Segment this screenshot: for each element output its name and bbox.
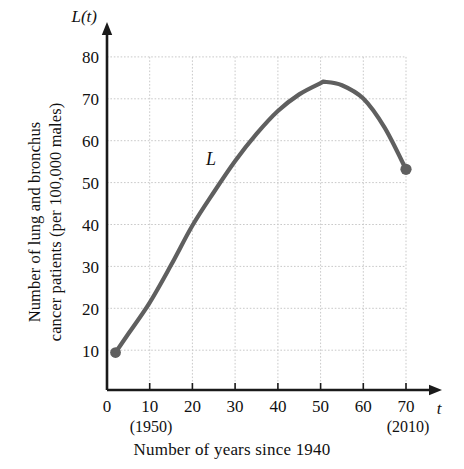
- curve-label-L: L: [205, 149, 216, 169]
- x-axis-caption: Number of years since 1940: [0, 440, 464, 460]
- xtick-label-70: 70: [398, 397, 415, 416]
- ytick-label-40: 40: [82, 216, 99, 235]
- y-axis-name-label: L(t): [71, 7, 98, 26]
- x-tick-annotations: (1950) (2010): [130, 418, 430, 436]
- line-chart-svg: 10 20 30 40 50 60 70 80 0 10 20 30 40 50…: [0, 0, 464, 469]
- y-tick-labels: 10 20 30 40 50 60 70 80: [82, 48, 99, 360]
- chart-figure: 10 20 30 40 50 60 70 80 0 10 20 30 40 50…: [0, 0, 464, 469]
- x-axis-name-label: t: [437, 399, 443, 418]
- y-axis-caption: Number of lung and bronchus cancer patie…: [24, 54, 66, 390]
- ytick-label-20: 20: [82, 300, 99, 319]
- xtick-label-10: 10: [141, 397, 158, 416]
- horizontal-gridlines: [107, 57, 406, 350]
- x-tick-labels: 0 10 20 30 40 50 60 70: [103, 397, 415, 416]
- xtick-annotation-2010: (2010): [387, 418, 430, 436]
- x-axis: [107, 385, 442, 395]
- vertical-gridlines: [150, 57, 406, 390]
- ytick-label-70: 70: [82, 90, 99, 109]
- ytick-label-10: 10: [82, 342, 99, 361]
- xtick-label-40: 40: [269, 397, 286, 416]
- xtick-label-30: 30: [227, 397, 244, 416]
- ytick-label-60: 60: [82, 132, 99, 151]
- ytick-label-50: 50: [82, 174, 99, 193]
- start-point-marker: [110, 347, 121, 358]
- xtick-label-60: 60: [355, 397, 372, 416]
- end-point-marker: [400, 164, 411, 175]
- data-curve-L: [116, 82, 406, 353]
- xtick-annotation-1950: (1950): [130, 418, 173, 436]
- y-axis-caption-line-2: cancer patients (per 100,000 males): [45, 54, 66, 390]
- ytick-label-80: 80: [82, 48, 99, 67]
- x-axis-arrowhead: [429, 385, 442, 395]
- y-axis: [102, 22, 112, 390]
- y-axis-arrowhead: [102, 22, 112, 35]
- xtick-label-20: 20: [184, 397, 201, 416]
- xtick-label-0: 0: [103, 397, 112, 416]
- xtick-label-50: 50: [312, 397, 329, 416]
- y-axis-caption-line-1: Number of lung and bronchus: [24, 54, 45, 390]
- ytick-label-30: 30: [82, 258, 99, 277]
